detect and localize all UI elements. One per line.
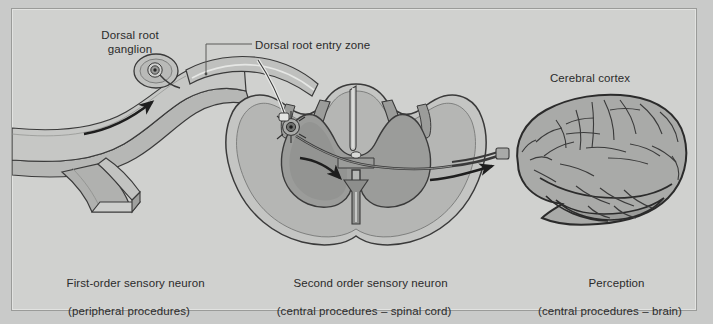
caption-second-order-line1: Second order sensory neuron bbox=[293, 277, 447, 289]
peripheral-nerve-trunk bbox=[12, 61, 250, 177]
caption-first-order-line2: (peripheral procedures) bbox=[14, 304, 244, 318]
cerebral-hemisphere-lateral-view bbox=[517, 95, 686, 225]
caption-second-order-sensory-neuron: Second order sensory neuron (central pro… bbox=[228, 262, 500, 324]
caption-perception-line2: (central procedures – brain) bbox=[520, 304, 700, 318]
dorsal-median-sulcus bbox=[350, 86, 356, 151]
caption-perception: Perception (central procedures – brain) bbox=[520, 262, 700, 324]
spinal-cord-cross-section bbox=[226, 60, 486, 245]
central-canal bbox=[351, 152, 361, 158]
caption-perception-line1: Perception bbox=[589, 277, 645, 289]
label-dorsal-root-ganglion: Dorsal root ganglion bbox=[70, 28, 190, 56]
caption-first-order-line1: First-order sensory neuron bbox=[67, 277, 205, 289]
figure-root: Dorsal root ganglion Dorsal root entry z… bbox=[0, 0, 713, 324]
label-cerebral-cortex: Cerebral cortex bbox=[502, 71, 678, 85]
caption-first-order-sensory-neuron: First-order sensory neuron (peripheral p… bbox=[14, 262, 244, 324]
label-dorsal-root-entry-zone: Dorsal root entry zone bbox=[255, 38, 370, 52]
caption-second-order-line2: (central procedures – spinal cord) bbox=[228, 304, 500, 318]
